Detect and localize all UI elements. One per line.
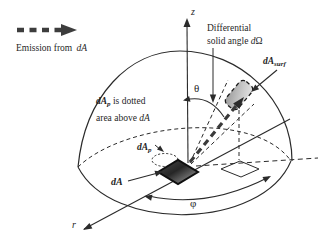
base-ellipse-back-edge — [78, 128, 291, 167]
solid-angle-callout-line2: solid angle dΩ — [207, 36, 263, 46]
legend-text: Emission from dA — [16, 43, 87, 53]
hemisphere-outline — [78, 51, 292, 167]
projection-note-line2: area above dA — [96, 113, 150, 123]
diagram-canvas: Emission from dA z Differential solid an… — [0, 0, 320, 242]
theta-arc — [185, 99, 224, 117]
emitting-area-label: dA — [111, 176, 123, 187]
projected-area-arrowhead-icon — [157, 146, 164, 152]
solid-angle-callout-line1: Differential — [207, 23, 251, 33]
theta-arc-arrowhead-icon — [183, 96, 191, 102]
emitting-area-label-arrow — [128, 174, 156, 182]
r-axis-arrowhead-icon — [83, 223, 92, 230]
projected-area-label: dAp — [137, 142, 152, 154]
solid-angle-diagram: Emission from dA z Differential solid an… — [0, 0, 320, 242]
phi-arc — [149, 177, 269, 200]
dashed-emission-arrowhead-icon — [61, 24, 77, 36]
solid-angle-pointer-arrowhead-icon — [210, 95, 216, 104]
z-axis-arrowhead-icon — [184, 18, 191, 27]
r-axis-label: r — [72, 219, 76, 230]
phi-arc-right-arrowhead-icon — [263, 176, 272, 182]
phi-label: φ — [190, 197, 196, 209]
z-axis-label: z — [190, 6, 195, 17]
projection-note-line1: dAp is dotted — [96, 96, 146, 108]
surface-area-label: dAsurf — [263, 56, 286, 68]
emission-ray — [190, 106, 236, 162]
z-axis — [187, 25, 188, 163]
theta-label: θ — [194, 82, 199, 94]
